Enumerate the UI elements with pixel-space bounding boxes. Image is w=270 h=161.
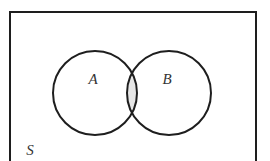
universe-label: S xyxy=(26,142,34,158)
venn-diagram: A B S xyxy=(0,0,270,161)
set-a-circle xyxy=(53,51,137,135)
set-a-label: A xyxy=(87,71,98,87)
set-b-label: B xyxy=(162,71,171,87)
set-b-circle xyxy=(127,51,211,135)
